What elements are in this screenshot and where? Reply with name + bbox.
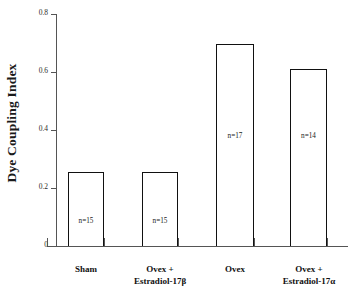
y-tick-label-2: 0.4 [39,124,48,133]
bar-sham[interactable]: n=15 [68,172,104,246]
x-label-ovex-estradiol-17-beta-line1: Ovex + [146,264,173,274]
y-tick-0: 0 [51,246,56,247]
y-axis-title-text: Dye Coupling Index [4,63,20,182]
x-label-ovex-estradiol-17-beta-line2: Estradiol-17β [112,276,208,287]
x-label-sham-line1: Sham [75,264,97,274]
x-label-ovex-estradiol-17-alpha-line1: Ovex + [295,264,322,274]
x-label-ovex-estradiol-17-alpha-line2: Estradiol-17α [261,276,357,287]
y-tick-label-4: 0.8 [39,8,48,17]
y-axis-title: Dye Coupling Index [0,0,24,246]
bar-label-ovex-estradiol-17-alpha: n=14 [291,132,326,140]
x-tick-b2 [104,238,105,246]
y-tick-label-1: 0.2 [39,182,48,191]
bar-label-sham: n=15 [69,217,103,225]
y-tick-1: 0.2 [51,188,56,189]
x-tick-b0 [47,238,48,246]
x-tick-b6 [254,238,255,246]
x-label-ovex-line1: Ovex [225,264,245,274]
x-tick-b4 [178,238,179,246]
x-tick-b8 [327,238,328,246]
x-label-ovex-estradiol-17-alpha: Ovex + Estradiol-17α [261,264,357,287]
y-tick-4: 0.8 [51,14,56,15]
bar-ovex[interactable]: n=17 [216,44,254,246]
bar-label-ovex: n=17 [217,132,253,140]
y-axis-line [56,14,57,246]
y-tick-2: 0.4 [51,130,56,131]
bar-label-ovex-estradiol-17-beta: n=15 [143,217,177,225]
y-tick-label-3: 0.6 [39,66,48,75]
bar-ovex-estradiol-17-beta[interactable]: n=15 [142,172,178,246]
y-tick-3: 0.6 [51,72,56,73]
x-axis-line [47,246,348,247]
bar-ovex-estradiol-17-alpha[interactable]: n=14 [290,69,327,246]
plot-area: 0 0.2 0.4 0.6 0.8 n=15 n=15 n [56,14,348,246]
